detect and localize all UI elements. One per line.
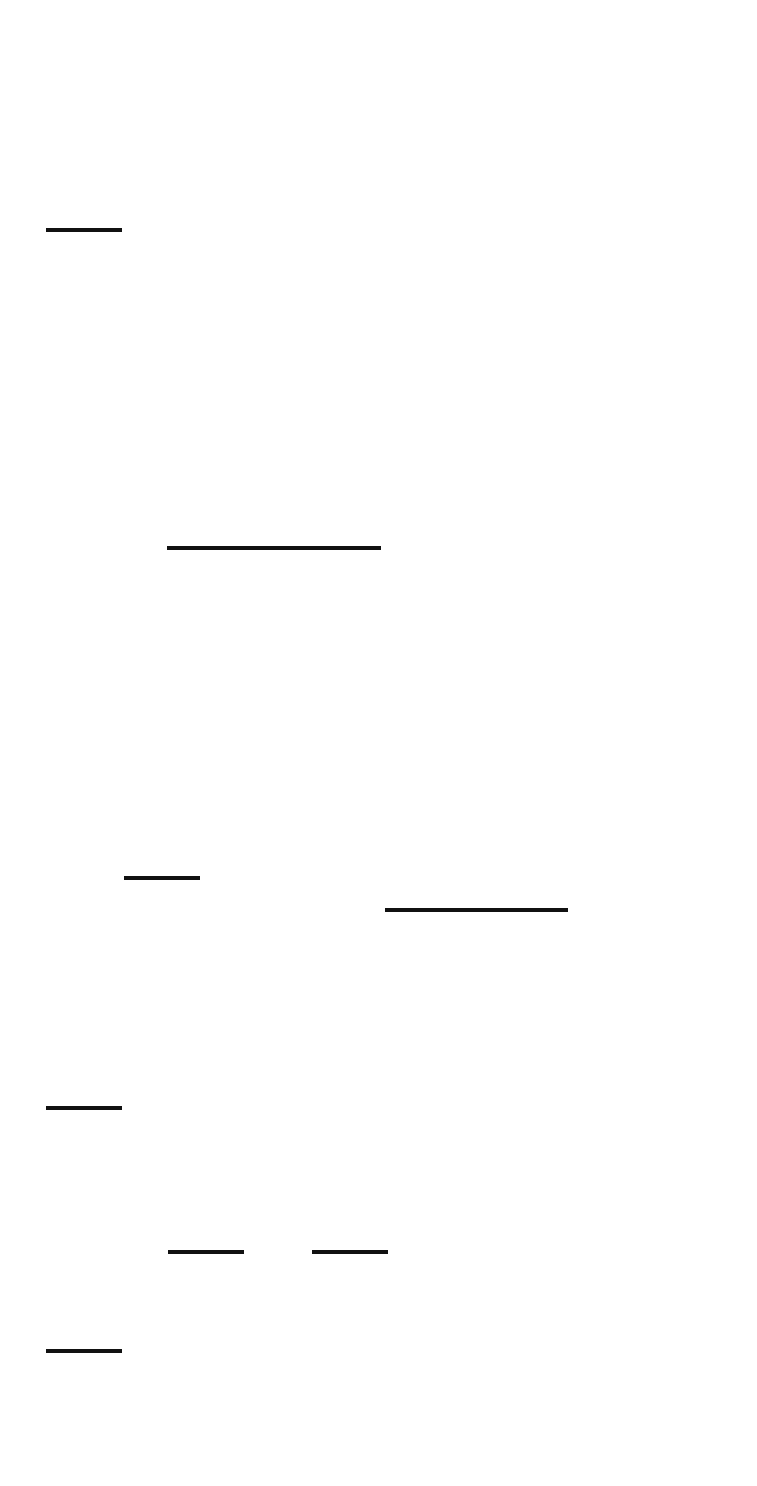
rule-gustave-descent bbox=[312, 1250, 388, 1254]
rule-germaine-descent bbox=[124, 876, 200, 880]
rule-josephine-descent bbox=[46, 1106, 122, 1110]
rule-michael-descent bbox=[385, 908, 568, 912]
rules-layer bbox=[0, 0, 757, 1486]
rule-fernand-descent bbox=[46, 1349, 122, 1353]
rule-maurice-descent bbox=[168, 1250, 244, 1254]
rule-renee-descent bbox=[167, 546, 381, 550]
rule-julius-descent bbox=[46, 228, 122, 232]
